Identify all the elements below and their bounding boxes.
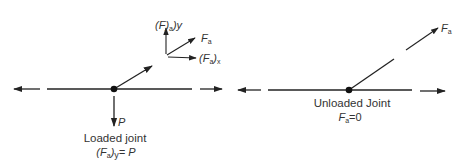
joint-node-2 bbox=[346, 87, 353, 94]
resultant-arrow bbox=[167, 38, 195, 55]
x-component-arrow bbox=[168, 57, 196, 58]
force-components bbox=[166, 28, 196, 58]
unloaded-joint-diagram bbox=[238, 28, 445, 93]
unloaded-force-label: Fa bbox=[441, 23, 452, 35]
x-component-label: (Fa)x bbox=[199, 53, 220, 65]
load-p-label: P bbox=[118, 117, 125, 128]
loaded-joint-caption: Loaded joint bbox=[84, 133, 147, 145]
diagonal-member bbox=[349, 59, 394, 90]
y-component-label: (F)a)y bbox=[155, 20, 182, 32]
resultant-label: Fa bbox=[201, 33, 212, 45]
joint-node bbox=[111, 86, 118, 93]
diagonal-force-arrow bbox=[406, 28, 438, 50]
unloaded-joint-equation: Fa=0 bbox=[338, 112, 361, 124]
loaded-joint-equation: (Fa)y= P bbox=[96, 147, 135, 160]
diagonal-member-force bbox=[114, 66, 152, 89]
loaded-joint-diagram bbox=[14, 28, 222, 126]
unloaded-joint-caption: Unloaded Joint bbox=[314, 98, 391, 110]
truss-joint-diagram bbox=[0, 0, 462, 164]
